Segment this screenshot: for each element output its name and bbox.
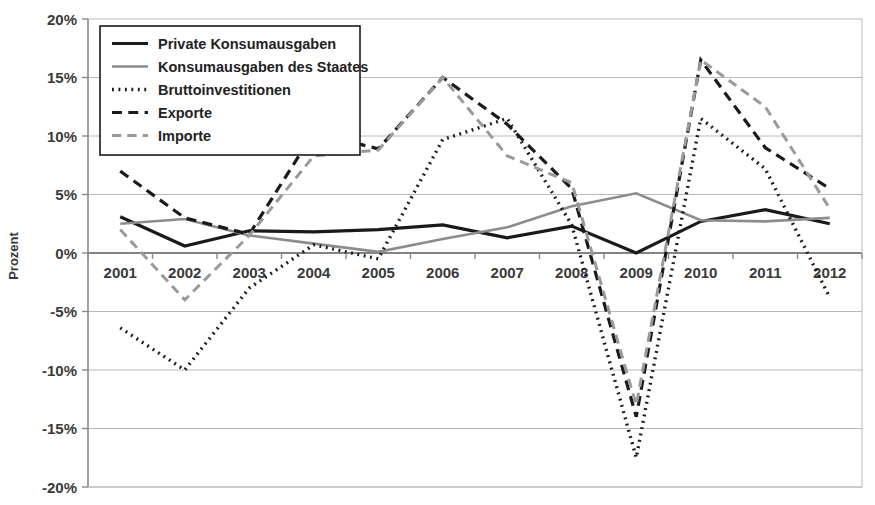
- y-tick-label: 5%: [55, 186, 77, 203]
- x-tick-label: 2004: [297, 264, 331, 281]
- legend-label-5: Importe: [158, 128, 211, 144]
- chart-canvas: 20%15%10%5%0%-5%-10%-15%-20% 20012002200…: [0, 0, 875, 505]
- y-tick-label: -20%: [42, 479, 77, 496]
- x-tick-label: 2008: [555, 264, 588, 281]
- series-line-1: [120, 210, 830, 253]
- y-tick-label: 0%: [55, 245, 77, 262]
- x-tick-label: 2003: [233, 264, 266, 281]
- y-tick-label: 15%: [47, 69, 77, 86]
- x-tick-label: 2001: [104, 264, 137, 281]
- y-tick-label: 20%: [47, 11, 77, 28]
- x-tick-label: 2012: [813, 264, 846, 281]
- y-tick-label: -10%: [42, 362, 77, 379]
- legend-label-1: Private Konsumausgaben: [158, 36, 336, 52]
- legend-label-4: Exporte: [158, 105, 212, 121]
- x-tick-label: 2009: [620, 264, 653, 281]
- x-tick-label: 2006: [426, 264, 459, 281]
- x-tick-label: 2007: [491, 264, 524, 281]
- x-tick-label: 2011: [749, 264, 782, 281]
- legend-label-2: Konsumausgaben des Staates: [158, 59, 368, 75]
- chart-legend: Private KonsumausgabenKonsumausgaben des…: [100, 26, 368, 155]
- y-axis: 20%15%10%5%0%-5%-10%-15%-20%: [42, 11, 88, 496]
- x-tick-label: 2005: [362, 264, 395, 281]
- y-tick-label: -15%: [42, 420, 77, 437]
- y-axis-title: Prozent: [6, 231, 21, 279]
- y-tick-label: 10%: [47, 128, 77, 145]
- x-tick-label: 2010: [684, 264, 717, 281]
- x-tick-label: 2002: [168, 264, 201, 281]
- y-tick-label: -5%: [50, 303, 77, 320]
- legend-label-3: Bruttoinvestitionen: [158, 82, 291, 98]
- series-line-3: [120, 118, 830, 457]
- series-line-2: [120, 193, 830, 252]
- line-chart: 20%15%10%5%0%-5%-10%-15%-20% 20012002200…: [0, 0, 875, 505]
- y-axis-title-group: Prozent: [6, 231, 21, 279]
